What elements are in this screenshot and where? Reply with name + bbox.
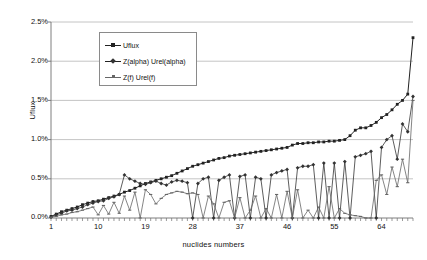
data-point (328, 140, 331, 143)
legend-label: Z(f) Urel(f) (121, 74, 155, 81)
data-point (353, 155, 357, 159)
data-point (338, 216, 342, 220)
data-point (191, 165, 194, 168)
data-point (391, 108, 394, 111)
data-point (286, 146, 289, 149)
legend-item-uflux: Uflux (105, 37, 192, 53)
legend-label: Uflux (121, 42, 139, 49)
data-point (259, 177, 263, 181)
data-point (159, 182, 163, 186)
legend-item-z-f: Z(f) Urel(f) (105, 69, 192, 85)
data-point (327, 216, 331, 220)
data-point (401, 99, 404, 102)
data-point (202, 162, 205, 165)
data-point (223, 156, 226, 159)
data-point (306, 164, 310, 168)
data-point (322, 161, 326, 165)
x-tick-label: 10 (86, 222, 110, 231)
data-point (395, 157, 399, 161)
data-point (375, 121, 378, 124)
data-point (333, 140, 336, 143)
data-point (322, 141, 325, 144)
data-point (301, 142, 304, 145)
data-point (181, 170, 184, 173)
data-point (207, 160, 210, 163)
data-point (254, 151, 257, 154)
x-tick-label: 55 (322, 222, 346, 231)
data-point (280, 147, 283, 150)
legend-label: Z(alpha) Urel(alpha) (121, 58, 186, 65)
data-point (238, 175, 242, 179)
chart-legend: Uflux Z(alpha) Urel(alpha) Z(f) Urel(f) (99, 32, 197, 86)
data-point (348, 216, 352, 220)
data-point (165, 176, 168, 179)
data-point (180, 179, 184, 183)
data-point (160, 177, 163, 180)
data-point (312, 141, 315, 144)
data-point (270, 148, 273, 151)
data-point (186, 181, 190, 185)
legend-marker-square-icon (105, 40, 121, 50)
data-point (370, 124, 373, 127)
data-point (170, 174, 173, 177)
uflux-nuclides-chart: 2.5% 2.0% 1.5% 1.0% 0.5% 0.0% Uflux 1101… (0, 0, 427, 260)
data-point (269, 173, 273, 177)
data-point (176, 172, 179, 175)
x-tick-label: 46 (275, 222, 299, 231)
data-point (412, 36, 415, 39)
data-point (186, 167, 189, 170)
data-point (285, 167, 289, 171)
data-point (296, 142, 299, 145)
data-point (296, 166, 300, 170)
data-point (369, 149, 373, 153)
data-point (338, 139, 341, 142)
data-point (280, 169, 284, 173)
data-point (248, 216, 252, 220)
data-point (134, 187, 137, 190)
x-tick-label: 1 (39, 222, 63, 231)
data-point (196, 163, 199, 166)
legend-item-z-alpha: Z(alpha) Urel(alpha) (105, 53, 192, 69)
data-point (128, 189, 131, 192)
data-point (275, 171, 279, 175)
data-point (249, 152, 252, 155)
data-point (349, 134, 352, 137)
x-axis-title: nuclides numbers (0, 240, 427, 249)
data-point (264, 216, 268, 220)
data-point (265, 149, 268, 152)
data-point (311, 163, 315, 167)
data-point (396, 103, 399, 106)
data-point (228, 155, 231, 158)
x-tick-label: 37 (228, 222, 252, 231)
data-point (317, 216, 321, 220)
legend-marker-diamond-icon (105, 56, 121, 66)
data-point (227, 173, 231, 177)
x-tick-label: 19 (133, 222, 157, 231)
data-point (374, 216, 378, 220)
x-tick-label: 28 (181, 222, 205, 231)
data-point (244, 152, 247, 155)
legend-marker-dash-icon (105, 72, 121, 82)
data-point (238, 153, 241, 156)
data-point (133, 179, 137, 183)
data-point (406, 93, 409, 96)
data-point (165, 183, 169, 187)
data-point (354, 129, 357, 132)
data-point (291, 144, 294, 147)
plot-area (0, 0, 427, 260)
data-point (317, 141, 320, 144)
data-point (359, 126, 362, 129)
data-point (212, 216, 216, 220)
data-point (332, 161, 336, 165)
data-point (212, 159, 215, 162)
series-line-1 (51, 96, 413, 218)
data-point (364, 152, 368, 156)
data-point (233, 154, 236, 157)
data-point (243, 173, 247, 177)
data-point (191, 216, 195, 220)
data-point (343, 160, 347, 164)
data-point (217, 157, 220, 160)
data-point (380, 116, 383, 119)
data-point (123, 191, 126, 194)
data-point (364, 126, 367, 129)
